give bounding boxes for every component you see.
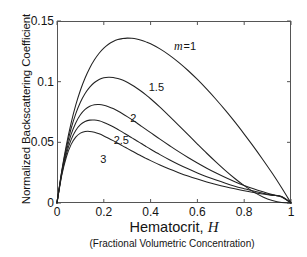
x-tick-label: 1 bbox=[288, 205, 295, 219]
x-tick-label: 0.4 bbox=[142, 205, 159, 219]
x-tick-label: 0.2 bbox=[95, 205, 112, 219]
curve-m-1-5 bbox=[57, 77, 291, 203]
curve-label-m15: 1.5 bbox=[149, 81, 164, 93]
curve-m-2-5 bbox=[57, 120, 291, 203]
curve-m-2 bbox=[57, 105, 291, 203]
x-axis-title: Hematocrit, H bbox=[57, 219, 291, 236]
curve-label-m2: 2 bbox=[130, 112, 136, 124]
curve-label-m25: 2.5 bbox=[114, 134, 129, 146]
y-axis-title: Normalized Backscattering Coefficient bbox=[20, 9, 32, 209]
x-axis-subtitle: (Fractional Volumetric Concentration) bbox=[37, 238, 307, 249]
y-tick-label: 0.05 bbox=[31, 135, 54, 149]
curve-label-m3: 3 bbox=[100, 153, 106, 165]
x-tick-label: 0.8 bbox=[236, 205, 253, 219]
y-tick-label: 0.1 bbox=[37, 75, 54, 89]
curve-m-3 bbox=[57, 131, 291, 203]
curves-group bbox=[57, 38, 291, 203]
chart-figure: Normalized Backscattering Coefficient 0.… bbox=[0, 0, 307, 257]
x-tick-label: 0.6 bbox=[189, 205, 206, 219]
curve-label-m1: m =1 bbox=[174, 39, 196, 54]
x-tick-label: 0 bbox=[54, 205, 61, 219]
y-tick-label: 0.15 bbox=[31, 14, 54, 28]
